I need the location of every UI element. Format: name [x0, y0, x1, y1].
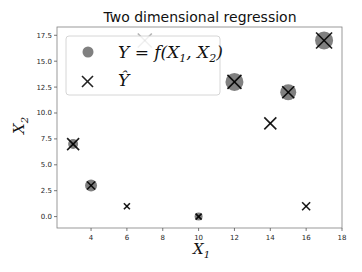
- y-tick-label: 5.0: [41, 161, 52, 169]
- x-tick-label: 8: [161, 234, 165, 242]
- y-tick-label: 2.5: [41, 187, 52, 195]
- y-tick-label: 7.5: [41, 135, 52, 143]
- y-axis-ticks: 0.02.55.07.510.012.515.017.5: [36, 32, 57, 221]
- legend: Y = f(X1, X2) Ŷ: [66, 36, 223, 95]
- y-tick-label: 15.0: [36, 58, 52, 66]
- x-axis-ticks: 4681012141618: [89, 228, 347, 242]
- y-tick-label: 12.5: [36, 84, 52, 92]
- y-axis-label: X2: [10, 117, 30, 135]
- legend-circle-icon: [83, 47, 94, 58]
- legend-label-y: Y = f(X1, X2): [118, 42, 223, 65]
- scatter-chart: Two dimensional regression 0.02.55.07.51…: [0, 0, 362, 272]
- x-tick-label: 16: [302, 234, 311, 242]
- x-axis-label: X1: [192, 240, 210, 260]
- x-tick-label: 4: [89, 234, 94, 242]
- x-tick-label: 18: [338, 234, 347, 242]
- x-tick-label: 12: [230, 234, 239, 242]
- y-tick-label: 0.0: [41, 213, 52, 221]
- x-tick-label: 6: [125, 234, 130, 242]
- y-tick-label: 10.0: [36, 109, 52, 117]
- chart-title: Two dimensional regression: [102, 9, 296, 25]
- y-tick-label: 17.5: [36, 32, 52, 40]
- legend-label-y-hat: Ŷ: [118, 70, 131, 90]
- x-tick-label: 14: [266, 234, 275, 242]
